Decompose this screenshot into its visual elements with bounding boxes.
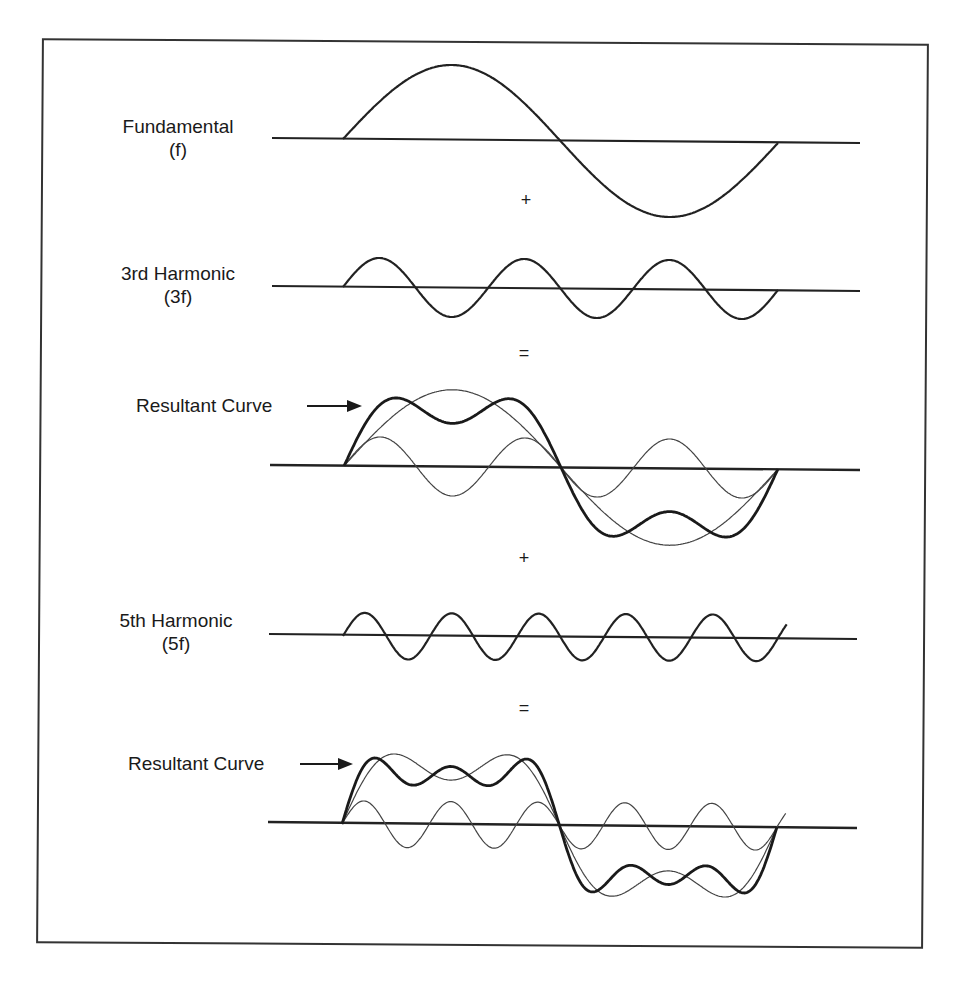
label-fifth-name: 5th Harmonic [96, 609, 256, 632]
baseline-fifth [269, 634, 857, 639]
label-fundamental-symbol: (f) [108, 138, 248, 161]
harmonic-diagram: Fundamental (f) 3rd Harmonic (3f) Result… [0, 0, 961, 984]
result1-arrow-head-icon [347, 400, 362, 412]
operator-equals-1: = [514, 343, 534, 363]
label-fundamental-name: Fundamental [108, 115, 248, 138]
baseline-result2 [268, 822, 857, 828]
result1-sum-curve [344, 398, 778, 537]
operator-plus-2: + [514, 548, 534, 568]
label-fifth-symbol: (5f) [96, 632, 256, 655]
baseline-third [272, 286, 860, 291]
label-third-symbol: (3f) [98, 285, 258, 308]
third-harmonic-wave [343, 258, 778, 319]
operator-equals-2: = [514, 698, 534, 718]
result2-arrow-head-icon [338, 758, 353, 770]
label-resultant-curve-1: Resultant Curve [136, 395, 272, 417]
operator-plus-1: + [516, 190, 536, 210]
label-third-name: 3rd Harmonic [98, 262, 258, 285]
label-fifth-harmonic: 5th Harmonic (5f) [96, 609, 256, 655]
label-resultant-curve-2: Resultant Curve [128, 753, 264, 775]
label-fundamental: Fundamental (f) [108, 115, 248, 161]
baseline-result1 [270, 465, 860, 470]
baseline-fundamental [272, 138, 860, 143]
label-third-harmonic: 3rd Harmonic (3f) [98, 262, 258, 308]
